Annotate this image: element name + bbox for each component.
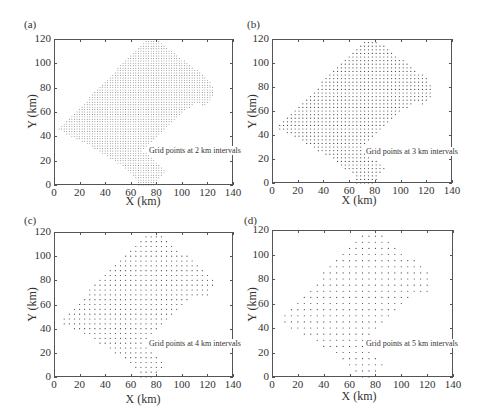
x-axis-label: X (km) [319,389,399,404]
annotation: Grid points at 5 km intervals [365,339,459,348]
x-tick-label: 20 [286,378,310,390]
tick-mark [272,377,275,378]
x-tick-label: 140 [441,378,465,390]
tick-mark [450,377,453,378]
tick-mark [453,374,454,377]
plot-area: 020406080100120140020406080100120 [272,230,453,377]
grid-points [272,230,453,377]
y-tick-label: 100 [245,248,269,260]
y-tick-label: 20 [245,346,269,358]
tick-mark [453,230,454,233]
y-tick-label: 120 [245,223,269,235]
y-axis-label: Y (km) [245,275,260,335]
panel-d: (d) 020406080100120140020406080100120 Gr… [0,0,481,418]
y-tick-label: 0 [245,370,269,382]
x-tick-label: 120 [415,378,439,390]
